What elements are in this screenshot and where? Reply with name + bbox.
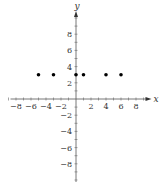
y-tick-label: −8 — [60, 160, 72, 169]
y-tick-label: 4 — [67, 63, 72, 72]
data-point — [52, 73, 56, 77]
data-points — [37, 73, 123, 77]
y-axis-arrow-icon — [74, 11, 78, 17]
y-tick-label: −4 — [60, 127, 72, 136]
x-tick-label: −4 — [40, 102, 52, 111]
tick-labels: −8−6−4−224688642−2−4−6−8 — [10, 30, 138, 169]
y-tick-label: 2 — [67, 79, 72, 88]
x-tick-label: 8 — [133, 102, 138, 111]
x-tick-label: 2 — [88, 102, 93, 111]
data-point — [119, 73, 123, 77]
data-point — [37, 73, 41, 77]
x-axis-arrow-icon — [146, 97, 152, 101]
x-tick-label: 6 — [118, 102, 123, 111]
x-axis-label: x — [154, 94, 159, 104]
x-tick-label: −8 — [10, 102, 22, 111]
axes — [11, 11, 152, 182]
y-tick-label: −6 — [60, 144, 72, 153]
y-tick-label: 8 — [67, 30, 72, 39]
data-point — [104, 73, 108, 77]
y-tick-label: −2 — [60, 111, 72, 120]
data-point — [74, 73, 78, 77]
coordinate-plane: −8−6−4−224688642−2−4−6−8 x y — [0, 0, 160, 189]
data-point — [82, 73, 86, 77]
x-tick-label: −6 — [25, 102, 37, 111]
y-tick-label: 6 — [67, 46, 72, 55]
x-tick-label: 4 — [103, 102, 108, 111]
x-tick-label: −2 — [55, 102, 67, 111]
y-axis-label: y — [73, 1, 80, 11]
